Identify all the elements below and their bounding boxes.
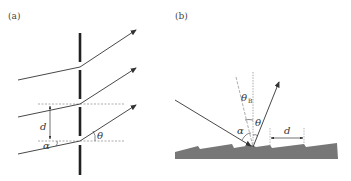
panel-b: (b) α θ θ B d — [175, 11, 338, 159]
spacing-symbol: d — [40, 121, 46, 132]
panel-a-label: (a) — [8, 11, 20, 21]
panel-b-label: (b) — [175, 11, 188, 21]
incident-angle-symbol: α — [43, 140, 50, 151]
panel-a: (a) d α θ — [8, 11, 136, 175]
blaze-angle-subscript: B — [248, 97, 253, 104]
spacing-symbol-b: d — [284, 125, 290, 136]
incident-angle-symbol-b: α — [237, 125, 244, 136]
alpha-arc — [56, 141, 57, 146]
diffraction-figure: (a) d α θ — [0, 0, 351, 181]
blaze-arc — [245, 120, 253, 121]
diffraction-angle-symbol: θ — [97, 130, 103, 141]
diffracted-ray — [253, 82, 279, 147]
incident-ray — [175, 100, 251, 146]
rays — [18, 30, 136, 154]
blazed-grating-surface — [175, 143, 338, 159]
diffraction-angle-symbol-b: θ — [255, 117, 261, 128]
blaze-angle-symbol: θ — [241, 92, 247, 103]
